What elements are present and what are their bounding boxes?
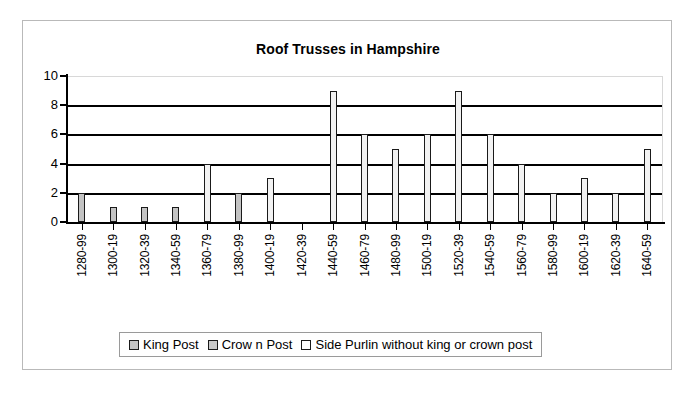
x-axis-tick-label: 1300-19 xyxy=(106,234,120,277)
x-axis-tick-label: 1540-59 xyxy=(483,234,497,277)
x-axis-tick-mark xyxy=(490,223,491,230)
x-axis-tick-mark xyxy=(302,223,303,230)
x-axis-tick-mark xyxy=(365,223,366,230)
x-axis-tick-mark xyxy=(553,223,554,230)
bar xyxy=(235,193,242,222)
x-axis-tick-mark xyxy=(522,223,523,230)
y-axis-tick-label: 6 xyxy=(30,127,58,140)
bar xyxy=(204,164,211,222)
x-axis-tick-label: 1400-19 xyxy=(263,234,277,277)
x-axis-tick-label: 1580-99 xyxy=(546,234,560,277)
x-axis-line xyxy=(66,222,665,224)
x-axis-tick-label: 1420-39 xyxy=(295,234,309,277)
bar xyxy=(392,149,399,222)
x-axis-tick-label: 1500-19 xyxy=(420,234,434,277)
bar xyxy=(550,193,557,222)
y-axis-tick-label: 10 xyxy=(30,69,58,82)
x-axis-tick-label: 1320-39 xyxy=(138,234,152,277)
bar xyxy=(487,134,494,222)
legend-item[interactable]: Crow n Post xyxy=(208,337,293,352)
y-axis-tick-label: 2 xyxy=(30,186,58,199)
x-axis-tick-label: 1380-99 xyxy=(232,234,246,277)
y-axis-tick-labels: 0246810 xyxy=(24,0,58,395)
x-axis-tick-mark xyxy=(584,223,585,230)
bar xyxy=(455,91,462,222)
bar xyxy=(424,134,431,222)
x-axis-tick-label: 1360-79 xyxy=(200,234,214,277)
legend-label: Crow n Post xyxy=(222,337,293,352)
bar xyxy=(518,164,525,222)
bar xyxy=(330,91,337,222)
x-axis-tick-label: 1520-39 xyxy=(452,234,466,277)
bar xyxy=(141,207,148,222)
x-axis-tick-label: 1600-19 xyxy=(577,234,591,277)
x-axis-tick-label: 1460-79 xyxy=(358,234,372,277)
bar xyxy=(581,178,588,222)
bar xyxy=(267,178,274,222)
y-axis-line xyxy=(66,74,68,224)
x-axis-tick-label: 1280-99 xyxy=(75,234,89,277)
x-axis-tick-mark xyxy=(270,223,271,230)
x-axis-tick-label: 1480-99 xyxy=(389,234,403,277)
chart-container: Roof Trusses in Hampshire 0246810 1280-9… xyxy=(0,0,695,395)
x-axis-tick-label: 1440-59 xyxy=(326,234,340,277)
x-axis-tick-mark xyxy=(333,223,334,230)
y-axis-tick-label: 0 xyxy=(30,215,58,228)
x-axis-tick-mark xyxy=(396,223,397,230)
bar xyxy=(361,134,368,222)
x-axis-tick-mark xyxy=(207,223,208,230)
bar xyxy=(644,149,651,222)
legend-item[interactable]: Side Purlin without king or crown post xyxy=(301,337,532,352)
y-axis-tick-label: 4 xyxy=(30,157,58,170)
gridline xyxy=(66,105,662,107)
y-axis-tick-label: 8 xyxy=(30,98,58,111)
x-axis-tick-label: 1340-59 xyxy=(169,234,183,277)
legend-swatch xyxy=(208,340,218,350)
x-axis-tick-mark xyxy=(647,223,648,230)
x-axis-tick-label: 1620-39 xyxy=(609,234,623,277)
bar xyxy=(78,193,85,222)
x-axis-tick-mark xyxy=(176,223,177,230)
x-axis-tick-mark xyxy=(616,223,617,230)
x-axis-tick-mark xyxy=(113,223,114,230)
bar xyxy=(612,193,619,222)
chart-legend: King PostCrow n PostSide Purlin without … xyxy=(119,332,542,357)
x-axis-tick-mark xyxy=(82,223,83,230)
legend-swatch xyxy=(301,340,311,350)
x-axis-tick-label: 1640-59 xyxy=(640,234,654,277)
legend-label: Side Purlin without king or crown post xyxy=(315,337,532,352)
chart-title: Roof Trusses in Hampshire xyxy=(23,41,673,57)
x-axis-tick-mark xyxy=(459,223,460,230)
x-axis-tick-mark xyxy=(427,223,428,230)
bar xyxy=(172,207,179,222)
x-axis-tick-label: 1560-79 xyxy=(515,234,529,277)
legend-swatch xyxy=(129,340,139,350)
legend-item[interactable]: King Post xyxy=(129,337,199,352)
plot-area xyxy=(66,76,663,222)
x-axis-tick-mark xyxy=(239,223,240,230)
bar xyxy=(110,207,117,222)
legend-label: King Post xyxy=(143,337,199,352)
x-axis-tick-mark xyxy=(145,223,146,230)
